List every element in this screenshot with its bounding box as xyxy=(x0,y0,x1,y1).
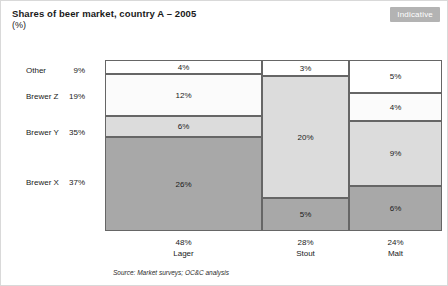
segment-label: 6% xyxy=(390,204,402,213)
row-label-brewer-x: Brewer X xyxy=(26,178,59,187)
segment-label: 12% xyxy=(175,91,191,100)
x-axis-name-malt: Malt xyxy=(349,248,442,259)
segment-lager-brewer-y[interactable]: 6% xyxy=(105,116,262,137)
segment-stout-brewer-x[interactable]: 5% xyxy=(262,198,349,231)
source-note: Source: Market surveys; OC&C analysis xyxy=(113,269,229,276)
status-badge: Indicative xyxy=(390,7,440,22)
x-axis-name-stout: Stout xyxy=(262,248,349,259)
row-label-axis: Other 9% Brewer Z 19% Brewer Y 35% Brewe… xyxy=(0,0,105,286)
segment-stout-other[interactable]: 3% xyxy=(262,60,349,76)
row-value-other: 9% xyxy=(73,66,85,75)
row-label-brewer-z: Brewer Z xyxy=(26,92,58,101)
marimekko-plot: 4% 12% 6% 26% 3% 20% 5% 5% 4% 9% xyxy=(105,60,442,231)
segment-label: 5% xyxy=(300,210,312,219)
segment-malt-other[interactable]: 5% xyxy=(349,60,442,93)
segment-label: 20% xyxy=(297,133,313,142)
row-value-brewer-y: 35% xyxy=(69,128,85,137)
column-lager[interactable]: 4% 12% 6% 26% xyxy=(105,60,262,231)
segment-malt-brewer-z[interactable]: 4% xyxy=(349,93,442,121)
segment-label: 5% xyxy=(390,72,402,81)
segment-label: 3% xyxy=(300,64,312,73)
row-label-brewer-y: Brewer Y xyxy=(26,128,59,137)
row-value-brewer-x: 37% xyxy=(69,178,85,187)
segment-label: 6% xyxy=(178,122,190,131)
x-axis-label-lager: 48% Lager xyxy=(105,237,262,259)
segment-malt-brewer-y[interactable]: 9% xyxy=(349,121,442,186)
x-axis-value-stout: 28% xyxy=(262,237,349,248)
segment-label: 26% xyxy=(175,180,191,189)
segment-label: 4% xyxy=(390,103,402,112)
column-stout[interactable]: 3% 20% 5% xyxy=(262,60,349,231)
segment-malt-brewer-x[interactable]: 6% xyxy=(349,186,442,231)
segment-lager-other[interactable]: 4% xyxy=(105,60,262,74)
x-axis-label-stout: 28% Stout xyxy=(262,237,349,259)
x-axis-label-malt: 24% Malt xyxy=(349,237,442,259)
segment-lager-brewer-z[interactable]: 12% xyxy=(105,74,262,116)
x-axis-name-lager: Lager xyxy=(105,248,262,259)
column-malt[interactable]: 5% 4% 9% 6% xyxy=(349,60,442,231)
row-label-other: Other xyxy=(26,66,46,75)
x-axis-value-lager: 48% xyxy=(105,237,262,248)
x-axis-value-malt: 24% xyxy=(349,237,442,248)
segment-lager-brewer-x[interactable]: 26% xyxy=(105,137,262,231)
row-value-brewer-z: 19% xyxy=(69,92,85,101)
segment-label: 4% xyxy=(178,63,190,72)
segment-stout-brewer-y[interactable]: 20% xyxy=(262,76,349,198)
segment-label: 9% xyxy=(390,149,402,158)
